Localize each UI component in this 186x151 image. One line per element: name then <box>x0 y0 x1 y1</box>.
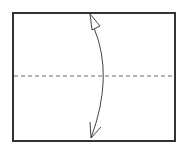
fold-diagram-svg <box>0 0 186 151</box>
fold-diagram <box>0 0 186 151</box>
paper-sheet <box>13 13 175 141</box>
